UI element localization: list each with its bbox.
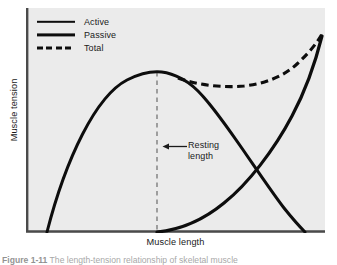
legend-item-passive: Passive xyxy=(37,28,135,41)
figure-caption: Figure 1-11 The length-tension relations… xyxy=(2,255,332,265)
figure-caption-text: The length-tension relationship of skele… xyxy=(50,255,238,265)
plot-panel: Active Passive Total Rest xyxy=(26,8,325,233)
resting-length-line1: Resting xyxy=(188,140,219,150)
figure-caption-number: Figure 1-11 xyxy=(2,255,47,265)
legend-label-passive: Passive xyxy=(84,30,116,40)
chart-legend: Active Passive Total xyxy=(37,15,135,54)
legend-label-total: Total xyxy=(84,43,104,53)
legend-label-active: Active xyxy=(84,17,109,27)
total-curve xyxy=(178,34,322,87)
resting-length-annotation: Resting length xyxy=(162,140,219,161)
legend-item-active: Active xyxy=(37,15,135,28)
dashed-line-icon xyxy=(37,42,75,54)
left-arrow-icon xyxy=(162,141,188,152)
x-axis-title: Muscle length xyxy=(26,237,325,247)
resting-length-label: Resting length xyxy=(188,140,219,161)
solid-line-icon xyxy=(37,29,75,41)
y-axis-title: Muscle tension xyxy=(9,50,19,170)
solid-line-icon xyxy=(37,16,75,28)
legend-item-total: Total xyxy=(37,41,135,54)
resting-length-line2: length xyxy=(188,151,213,161)
